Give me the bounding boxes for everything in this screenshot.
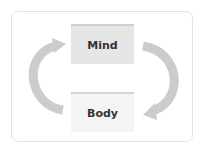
mind-label: Mind	[87, 39, 117, 52]
arrow-body-to-mind	[33, 38, 66, 110]
arrow-mind-to-body	[143, 46, 174, 120]
mind-node: Mind	[71, 24, 134, 64]
body-label: Body	[87, 107, 118, 120]
body-node: Body	[71, 92, 134, 132]
